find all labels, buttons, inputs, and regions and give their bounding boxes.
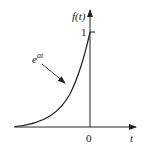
y-tick-label: 1 [81,27,87,38]
exponential-function-diagram: f(t) 1 0 t eat [0,0,145,156]
exponential-curve [15,32,90,127]
y-axis-label: f(t) [72,11,85,22]
curve-label: eat [32,52,43,65]
x-axis-label: t [130,133,133,144]
curve-label-pointer-arrow [42,64,65,83]
curve-label-exponent: at [37,51,43,60]
diagram-canvas [0,0,145,156]
x-origin-label: 0 [86,133,92,144]
